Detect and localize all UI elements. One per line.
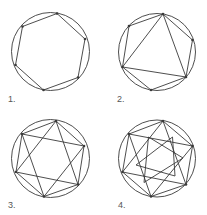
figure-label: 1. <box>8 95 16 104</box>
circle <box>12 120 90 198</box>
figure-label: 2. <box>117 95 125 104</box>
figure-3: 3. <box>0 107 103 214</box>
triangle <box>123 14 187 77</box>
figure-2-graphic <box>103 0 207 107</box>
figure-1-graphic <box>0 0 103 107</box>
figure-3-graphic <box>0 107 103 215</box>
figure-label: 4. <box>118 201 126 210</box>
vertex-markers <box>14 12 86 91</box>
circle <box>12 13 90 91</box>
hexagon <box>16 14 86 91</box>
figure-label: 3. <box>8 201 16 210</box>
figure-1: 1. <box>0 0 103 107</box>
triangle-a <box>123 121 187 185</box>
vertex-markers <box>121 120 194 198</box>
figure-2: 2. <box>103 0 206 107</box>
triangle-b <box>22 134 84 197</box>
circle <box>119 14 196 91</box>
triangle-a <box>16 121 78 185</box>
hexagon <box>123 14 193 90</box>
figure-4-graphic <box>103 107 207 215</box>
figure-4: 4. <box>103 107 206 214</box>
